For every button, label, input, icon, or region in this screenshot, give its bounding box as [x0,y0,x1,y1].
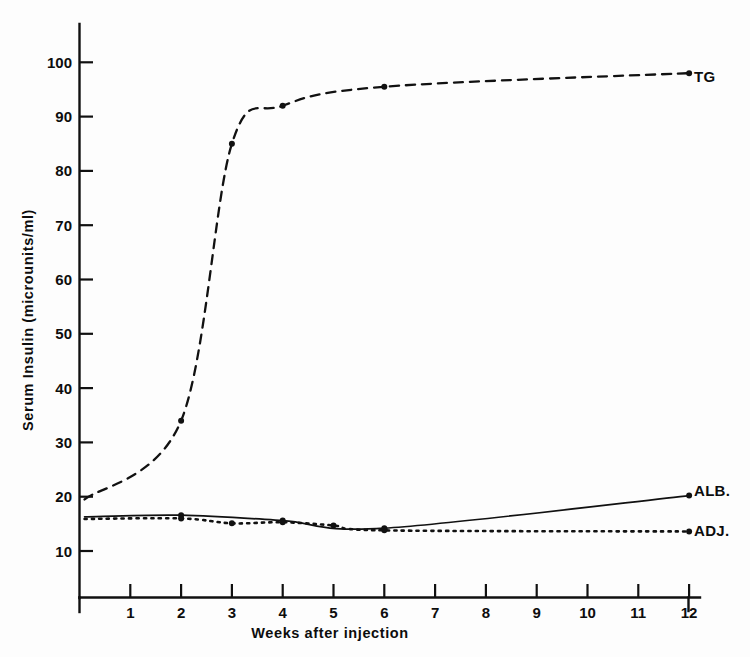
x-tick-label: 4 [279,604,288,621]
data-point-marker [178,418,184,424]
y-tick-label: 10 [55,543,72,560]
chart-figure: 102030405060708090100 123456789101112 TG… [0,0,750,657]
data-point-marker [381,84,387,90]
data-point-marker [686,493,692,499]
x-tick-label: 1 [126,604,134,621]
y-tick-label: 40 [55,380,72,397]
chart-canvas: 102030405060708090100 123456789101112 TG… [0,0,750,657]
y-tick-label: 80 [55,162,72,179]
y-tick-label: 100 [47,54,72,71]
data-point-marker [686,528,692,534]
series-line-tg [85,73,690,499]
data-point-marker [280,519,286,525]
y-tick-label: 30 [55,434,72,451]
series-label-alb: ALB. [694,482,730,499]
x-tick-label: 3 [228,604,236,621]
x-tick-group: 123456789101112 [126,584,697,621]
y-tick-label: 20 [55,488,72,505]
x-tick-label: 9 [533,604,541,621]
x-tick-label: 11 [630,604,646,621]
x-axis-title: Weeks after injection [251,625,408,641]
series-label-adj: ADJ. [694,522,729,539]
data-point-marker [280,103,286,109]
x-tick-label: 5 [329,604,337,621]
x-tick-label: 2 [177,604,185,621]
data-point-marker [381,527,387,533]
series-label-tg: TG [694,68,715,85]
x-tick-label: 10 [579,604,596,621]
y-tick-label: 90 [55,108,72,125]
data-point-marker [178,515,184,521]
x-tick-label: 8 [482,604,490,621]
y-axis-title: Serum Insulin (microunits/ml) [20,209,36,431]
y-tick-group: 102030405060708090100 [47,54,93,560]
series-line-alb [85,496,690,530]
y-tick-label: 70 [55,217,72,234]
data-point-marker [686,70,692,76]
data-point-marker [229,141,235,147]
series-layer [85,70,693,534]
y-tick-label: 50 [55,325,72,342]
x-tick-label: 7 [431,604,439,621]
data-point-marker [229,520,235,526]
axes-group [80,24,701,612]
y-tick-label: 60 [55,271,72,288]
x-tick-label: 12 [681,604,698,621]
data-point-marker [331,522,337,528]
x-tick-label: 6 [380,604,388,621]
